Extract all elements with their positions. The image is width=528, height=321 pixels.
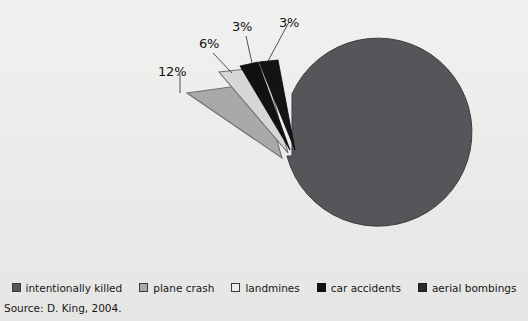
legend-swatch-icon [418,283,427,292]
legend-swatch-icon [12,283,21,292]
legend-item-aerial-bombings[interactable]: aerial bombings [418,282,517,294]
legend-swatch-icon [139,283,148,292]
legend-swatch-icon [317,283,326,292]
legend-item-intentionally-killed[interactable]: intentionally killed [12,282,123,294]
legend-item-label: plane crash [153,282,214,294]
pie-slice-intentionally-killed[interactable] [287,38,472,226]
pie-chart-svg [0,5,528,273]
pie-label-landmines: 6% [199,36,219,51]
legend-item-label: intentionally killed [26,282,123,294]
source-note: Source: D. King, 2004. [4,302,122,314]
legend-item-label: landmines [245,282,299,294]
pie-label-plane-crash: 12% [158,64,186,79]
legend-item-label: car accidents [331,282,401,294]
chart-legend: intentionally killed plane crash landmin… [0,279,528,296]
legend-item-label: aerial bombings [432,282,517,294]
leader-line-car-accidents [246,36,252,63]
legend-item-plane-crash[interactable]: plane crash [139,282,214,294]
pie-label-aerial-bombings: 3% [279,15,299,30]
leader-line-landmines [213,53,232,73]
legend-item-car-accidents[interactable]: car accidents [317,282,401,294]
legend-item-landmines[interactable]: landmines [231,282,299,294]
legend-swatch-icon [231,283,240,292]
pie-label-car-accidents: 3% [232,19,252,34]
pie-chart: 12% 6% 3% 3% [0,5,528,273]
chart-page: 12% 6% 3% 3% intentionally killed plane … [0,0,528,321]
